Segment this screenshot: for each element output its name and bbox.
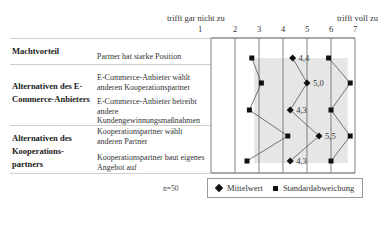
svg-text:5,5: 5,5	[325, 131, 336, 141]
diamond-icon	[215, 184, 223, 192]
legend-mean: Mittelwert	[227, 183, 263, 193]
legend: Mittelwert Standardabweichung	[207, 178, 363, 198]
svg-text:4,4: 4,4	[299, 53, 310, 63]
legend-sd: Standardabweichung	[283, 183, 354, 193]
svg-text:5,0: 5,0	[313, 78, 324, 88]
svg-text:4,3: 4,3	[296, 156, 307, 166]
sample-size: n=50	[163, 184, 178, 193]
svg-text:4,3: 4,3	[296, 105, 307, 115]
square-icon	[273, 186, 278, 191]
